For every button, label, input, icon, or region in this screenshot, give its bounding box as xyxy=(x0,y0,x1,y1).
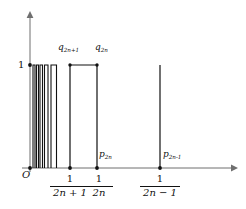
label-p-2n-minus-1-subscript: 2n-1 xyxy=(169,154,182,160)
dot-one-over-2n xyxy=(95,166,99,170)
dot-q2n xyxy=(95,63,98,66)
tick-label-one-over-2n-plus-1: 1 2n + 1 xyxy=(50,174,90,198)
narrow-bar-5 xyxy=(51,65,57,168)
tick-numerator: 1 xyxy=(85,174,113,186)
label-q-2n-subscript: 2n xyxy=(101,47,108,53)
x-axis-arrow-icon xyxy=(231,165,238,172)
y-axis xyxy=(27,11,34,172)
narrow-bar-1 xyxy=(33,65,35,168)
tick-denominator: 2n − 1 xyxy=(140,187,180,199)
origin-label: O xyxy=(22,170,30,180)
figure-canvas: 1 O q2n+1 q2n p2n p2n-1 1 2n + 1 1 2n 1 … xyxy=(0,0,246,209)
label-q-2n-plus-1-subscript: 2n+1 xyxy=(64,47,79,53)
tick-numerator: 1 xyxy=(140,174,180,186)
label-p-2n-base: p xyxy=(99,149,105,159)
tick-denominator: 2n xyxy=(85,187,113,199)
label-p-2n-minus-1: p2n-1 xyxy=(163,150,181,159)
tick-label-one-over-2n-minus-1: 1 2n − 1 xyxy=(140,174,180,198)
dot-one-over-2n-minus-1 xyxy=(158,166,162,170)
y-axis-arrow-icon xyxy=(27,11,34,18)
narrow-bar-4 xyxy=(45,65,49,168)
label-p-2n: p2n xyxy=(99,150,112,159)
dot-q2n-plus-1 xyxy=(68,63,71,66)
y-axis-value-one: 1 xyxy=(18,60,24,70)
narrow-bar-2 xyxy=(37,65,39,168)
label-p-2n-subscript: 2n xyxy=(105,154,112,160)
dot-height-one xyxy=(28,63,32,67)
label-p-2n-minus-1-base: p xyxy=(163,149,169,159)
tick-label-one-over-2n: 1 2n xyxy=(85,174,113,198)
wide-bar-q2n xyxy=(70,65,97,168)
tick-numerator: 1 xyxy=(50,174,90,186)
label-q-2n-base: q xyxy=(95,42,101,52)
diagram-svg xyxy=(0,0,246,209)
label-q-2n-plus-1-base: q xyxy=(58,42,64,52)
narrow-bar-group xyxy=(33,65,57,168)
x-axis xyxy=(22,165,238,172)
label-q-2n-plus-1: q2n+1 xyxy=(58,43,79,52)
narrow-bar-3 xyxy=(40,65,43,168)
dot-one-over-2n-plus-1 xyxy=(68,166,72,170)
label-q-2n: q2n xyxy=(95,43,108,52)
tick-denominator: 2n + 1 xyxy=(50,187,90,199)
